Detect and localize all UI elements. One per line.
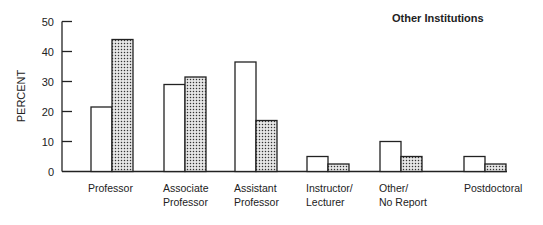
y-tick-label: 30 [42,76,54,88]
bar-chart: Other Institutions PERCENT 01020304050 P… [0,0,543,225]
chart-title: Other Institutions [392,12,484,24]
y-axis-label: PERCENT [15,69,27,122]
y-tick-label: 50 [42,16,54,28]
x-tick-label: Instructor/ [306,182,353,194]
x-tick-label: Professor [88,182,133,194]
bar [307,157,328,172]
x-tick-label: Postdoctoral [464,182,522,194]
bar [401,157,422,172]
bar [235,62,256,172]
x-tick-label: No Report [379,196,427,208]
bars [91,40,506,172]
x-tick-label: Other/ [379,182,408,194]
x-tick-label: Lecturer [306,196,345,208]
y-tick-label: 40 [42,46,54,58]
y-tick-label: 0 [48,166,54,178]
bar [485,164,506,172]
x-tick-label: Professor [234,196,279,208]
bar [328,164,349,172]
bar [464,157,485,172]
x-axis-labels: ProfessorAssociateProfessorAssistantProf… [88,182,522,208]
bar [256,121,277,172]
bar [112,40,133,172]
x-tick-label: Assistant [234,182,277,194]
bar [185,77,206,172]
y-tick-label: 20 [42,106,54,118]
y-tick-label: 10 [42,136,54,148]
bar [164,85,185,172]
x-tick-label: Professor [163,196,208,208]
bar [380,142,401,172]
x-tick-label: Associate [163,182,209,194]
bar [91,107,112,172]
